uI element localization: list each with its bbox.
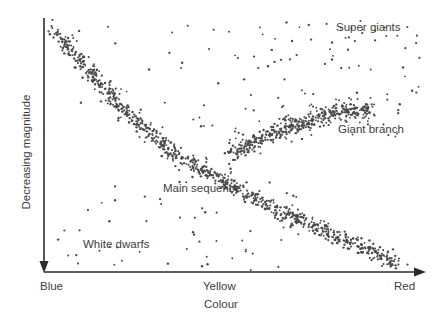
data-point (187, 157, 189, 159)
data-point (396, 35, 398, 37)
data-point (374, 257, 376, 259)
data-point (57, 40, 59, 42)
data-point (336, 113, 338, 115)
data-point (394, 136, 396, 138)
data-point (315, 116, 317, 118)
data-point (120, 116, 122, 118)
data-point (273, 201, 275, 203)
annotation-super-giants: Super giants (336, 22, 401, 34)
data-point (308, 126, 310, 128)
data-point (343, 102, 345, 104)
data-point (242, 186, 244, 188)
data-point (249, 230, 251, 232)
data-point (290, 217, 292, 219)
data-point (205, 161, 207, 163)
data-point (335, 107, 337, 109)
data-point (203, 104, 205, 106)
data-point (270, 126, 272, 128)
data-point (294, 125, 296, 127)
data-point (246, 151, 248, 153)
data-point (135, 115, 137, 117)
data-point (306, 217, 308, 219)
data-point (75, 254, 77, 256)
data-point (319, 125, 321, 127)
data-point (179, 216, 181, 218)
data-point (376, 256, 378, 258)
data-point (287, 211, 289, 213)
data-point (74, 66, 76, 68)
data-point (252, 202, 254, 204)
data-point (57, 238, 59, 240)
data-point (222, 179, 224, 181)
data-point (295, 54, 297, 56)
data-point (346, 104, 348, 106)
data-point (319, 116, 321, 118)
data-point (302, 217, 304, 219)
data-point (78, 55, 80, 57)
data-point (368, 246, 370, 248)
data-point (386, 259, 388, 261)
data-point (247, 196, 249, 198)
data-point (117, 119, 119, 121)
data-point (61, 49, 63, 51)
data-point (92, 80, 94, 82)
data-point (165, 144, 167, 146)
data-point (51, 27, 53, 29)
data-point (101, 75, 103, 77)
data-point (258, 120, 260, 122)
data-point (77, 62, 79, 64)
data-point (386, 99, 388, 101)
data-point (243, 78, 245, 80)
data-point (245, 249, 247, 251)
data-point (200, 125, 202, 127)
data-point (255, 193, 257, 195)
data-point (285, 216, 287, 218)
data-point (201, 170, 203, 172)
data-point (246, 190, 248, 192)
data-point (304, 220, 306, 222)
data-point (253, 147, 255, 149)
data-point (54, 33, 56, 35)
data-point (285, 115, 287, 117)
data-point (339, 117, 341, 119)
data-point (189, 161, 191, 163)
data-point (138, 126, 140, 128)
data-point (295, 220, 297, 222)
data-point (91, 73, 93, 75)
data-point (376, 252, 378, 254)
data-point (345, 114, 347, 116)
data-point (143, 129, 145, 131)
data-point (78, 30, 80, 32)
data-point (273, 131, 275, 133)
data-point (350, 241, 352, 243)
data-point (406, 26, 408, 28)
data-point (279, 220, 281, 222)
data-point (187, 155, 189, 157)
data-point (56, 34, 58, 36)
data-point (360, 237, 362, 239)
data-point (233, 152, 235, 154)
data-point (272, 126, 274, 128)
data-point (145, 220, 147, 222)
data-point (112, 104, 114, 106)
data-point (138, 136, 140, 138)
data-point (75, 60, 77, 62)
data-point (270, 139, 272, 141)
data-point (380, 258, 382, 260)
data-point (47, 30, 49, 32)
data-point (228, 31, 230, 33)
data-point (277, 218, 279, 220)
data-point (314, 224, 316, 226)
data-point (80, 62, 82, 64)
data-point (299, 26, 301, 28)
data-point (394, 258, 396, 260)
data-point (139, 124, 141, 126)
annotation-giant-branch: Giant branch (338, 124, 404, 136)
data-point (223, 177, 225, 179)
data-point (162, 148, 164, 150)
x-axis-label: Colour (204, 299, 238, 311)
data-point (51, 19, 53, 21)
data-point (196, 164, 198, 166)
data-point (71, 49, 73, 51)
data-point (292, 118, 294, 120)
